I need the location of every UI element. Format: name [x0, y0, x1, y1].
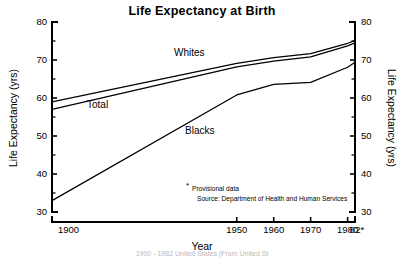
life-expectancy-line-chart: Life Expectancy at Birth 304050607080 Li… [0, 0, 404, 258]
y-tick-label-right: 80 [361, 16, 372, 27]
series-lines [52, 41, 355, 201]
left-axis-tick-labels: 304050607080 [36, 16, 47, 217]
chart-title: Life Expectancy at Birth [128, 4, 275, 18]
left-axis: 304050607080 Life Expectancy (yrs) [7, 16, 57, 217]
y-tick-label-left: 30 [36, 206, 47, 217]
x-tick-label: 1970 [300, 224, 321, 235]
x-axis-tick-labels: 1900195019601970198082* [58, 224, 364, 235]
source-note: Source: Department of Health and Human S… [197, 195, 348, 203]
provisional-note: Provisional data [192, 185, 239, 192]
x-axis: 1900195019601970198082* Year [52, 217, 364, 252]
right-axis: 304050607080 Life Expectancy (yrs) [350, 16, 398, 217]
figure-caption: 1900 - 1982 United States (From United S… [136, 250, 269, 258]
chart-figure: Life Expectancy at Birth 304050607080 Li… [0, 0, 404, 258]
series-label-blacks: Blacks [185, 125, 214, 136]
x-axis-line [52, 217, 355, 222]
right-axis-title: Life Expectancy (yrs) [386, 69, 398, 167]
y-tick-label-left: 70 [36, 54, 47, 65]
left-axis-title: Life Expectancy (yrs) [7, 69, 19, 167]
x-tick-label: 1960 [263, 224, 284, 235]
x-tick-label: 82* [350, 224, 365, 235]
y-tick-label-right: 30 [361, 206, 372, 217]
x-tick-label: 1950 [226, 224, 247, 235]
y-tick-label-right: 70 [361, 54, 372, 65]
y-tick-label-right: 60 [361, 92, 372, 103]
series-label-total: Total [87, 99, 108, 110]
y-tick-label-right: 40 [361, 168, 372, 179]
y-tick-label-left: 60 [36, 92, 47, 103]
y-tick-label-left: 40 [36, 168, 47, 179]
y-tick-label-right: 50 [361, 130, 372, 141]
right-axis-tick-labels: 304050607080 [361, 16, 372, 217]
x-tick-label: 1900 [58, 224, 79, 235]
y-tick-label-left: 50 [36, 130, 47, 141]
provisional-star-icon: * [186, 181, 189, 190]
chart-annotations: * Provisional data Source: Department of… [186, 181, 348, 203]
y-tick-label-left: 80 [36, 16, 47, 27]
series-label-whites: Whites [174, 47, 205, 58]
